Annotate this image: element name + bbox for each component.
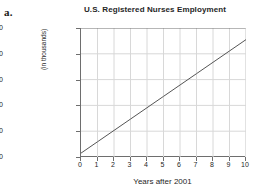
- plot-svg: [81, 28, 246, 157]
- chart-figure: U.S. Registered Nurses Employment (in th…: [0, 0, 255, 194]
- y-tick-label: 2700: [0, 24, 3, 31]
- x-tick-mark: [146, 157, 147, 161]
- x-tick-label: 0: [73, 161, 87, 168]
- x-tick-label: 6: [172, 161, 186, 168]
- x-tick-mark: [163, 157, 164, 161]
- x-tick-label: 7: [189, 161, 203, 168]
- x-tick-label: 5: [156, 161, 170, 168]
- x-tick-mark: [113, 157, 114, 161]
- x-tick-label: 4: [139, 161, 153, 168]
- x-tick-label: 2: [106, 161, 120, 168]
- y-tick-label: 2300: [0, 127, 3, 134]
- x-tick-mark: [196, 157, 197, 161]
- x-tick-label: 9: [222, 161, 236, 168]
- x-tick-mark: [229, 157, 230, 161]
- x-tick-label: 10: [238, 161, 252, 168]
- x-tick-mark: [130, 157, 131, 161]
- y-tick-label: 2400: [0, 101, 3, 108]
- x-tick-label: 3: [123, 161, 137, 168]
- plot-area: [80, 28, 245, 157]
- chart-title: U.S. Registered Nurses Employment: [60, 5, 250, 14]
- grid-lines: [81, 28, 246, 157]
- x-tick-mark: [245, 157, 246, 161]
- y-tick-label: 2500: [0, 76, 3, 83]
- y-tick-label: 2200: [0, 153, 3, 160]
- x-tick-mark: [80, 157, 81, 161]
- x-tick-mark: [179, 157, 180, 161]
- x-tick-mark: [212, 157, 213, 161]
- x-tick-label: 1: [90, 161, 104, 168]
- y-tick-label: 2600: [0, 50, 3, 57]
- x-tick-mark: [97, 157, 98, 161]
- x-tick-label: 8: [205, 161, 219, 168]
- y-axis-title: (in thousands): [40, 2, 47, 98]
- x-axis-title: Years after 2001: [80, 177, 245, 186]
